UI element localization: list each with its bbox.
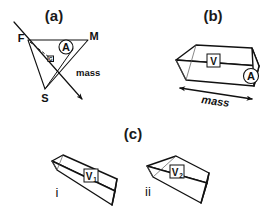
volume-sub-i: 1 xyxy=(93,176,97,183)
panel-b: (b) V A mass xyxy=(176,7,259,109)
vertex-label-s: S xyxy=(41,92,48,104)
panel-c: (c) V 1 i V xyxy=(52,125,209,205)
panel-c-item-i: V 1 i xyxy=(52,155,117,205)
panel-c-item-ii: V 2 ii xyxy=(145,156,209,203)
vertex-label-m: M xyxy=(89,30,98,42)
mass-label-b: mass xyxy=(201,93,231,109)
point-g-label: G xyxy=(49,56,53,62)
panel-b-label: (b) xyxy=(203,7,222,24)
roman-label-i: i xyxy=(56,185,59,200)
panel-c-label: (c) xyxy=(124,125,142,142)
vertex-label-f: F xyxy=(18,32,25,44)
volume-label-b: V xyxy=(210,56,217,67)
diagram-svg: (a) A G F M S mass (b) xyxy=(0,0,267,222)
angle-marker-label-a: A xyxy=(62,41,70,53)
volume-label-i: V xyxy=(86,171,93,182)
roman-label-ii: ii xyxy=(145,184,151,199)
figure-canvas: (a) A G F M S mass (b) xyxy=(0,0,267,222)
panel-a: (a) A G F M S mass xyxy=(14,7,100,104)
volume-label-ii: V xyxy=(172,167,179,178)
area-marker-label-b: A xyxy=(247,70,255,82)
panel-a-label: (a) xyxy=(45,7,63,24)
volume-sub-ii: 2 xyxy=(179,172,183,179)
mass-label-a: mass xyxy=(76,67,100,78)
